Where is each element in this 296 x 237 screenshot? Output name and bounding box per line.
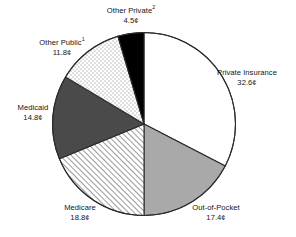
pie-label-private-insurance-name: Private Insurance (200, 68, 294, 78)
pie-label-other-private: Other Private2 4.5¢ (88, 6, 174, 25)
pie-label-out-of-pocket-name: Out-of-Pocket (176, 203, 256, 213)
pie-label-other-public-name: Other Public1 (19, 38, 105, 48)
pie-label-medicare: Medicare 18.8¢ (44, 203, 116, 222)
pie-label-medicaid-value: 14.8¢ (0, 113, 68, 123)
pie-label-private-insurance: Private Insurance 32.6¢ (200, 68, 294, 87)
pie-label-other-public: Other Public1 11.8¢ (19, 38, 105, 57)
pie-label-medicare-value: 18.8¢ (44, 213, 116, 223)
pie-label-other-public-value: 11.8¢ (19, 48, 105, 58)
footnote-marker-2: 2 (152, 4, 155, 10)
pie-label-other-private-value: 4.5¢ (88, 16, 174, 26)
pie-label-out-of-pocket: Out-of-Pocket 17.4¢ (176, 203, 256, 222)
footnote-marker-1: 1 (82, 36, 85, 42)
pie-label-out-of-pocket-value: 17.4¢ (176, 213, 256, 223)
pie-label-medicaid-name: Medicaid (0, 103, 68, 113)
pie-label-other-private-name: Other Private2 (88, 6, 174, 16)
pie-label-medicare-name: Medicare (44, 203, 116, 213)
pie-chart: Other Private2 4.5¢ Other Public1 11.8¢ … (0, 0, 296, 237)
pie-label-private-insurance-value: 32.6¢ (200, 78, 294, 88)
pie-label-medicaid: Medicaid 14.8¢ (0, 103, 68, 122)
